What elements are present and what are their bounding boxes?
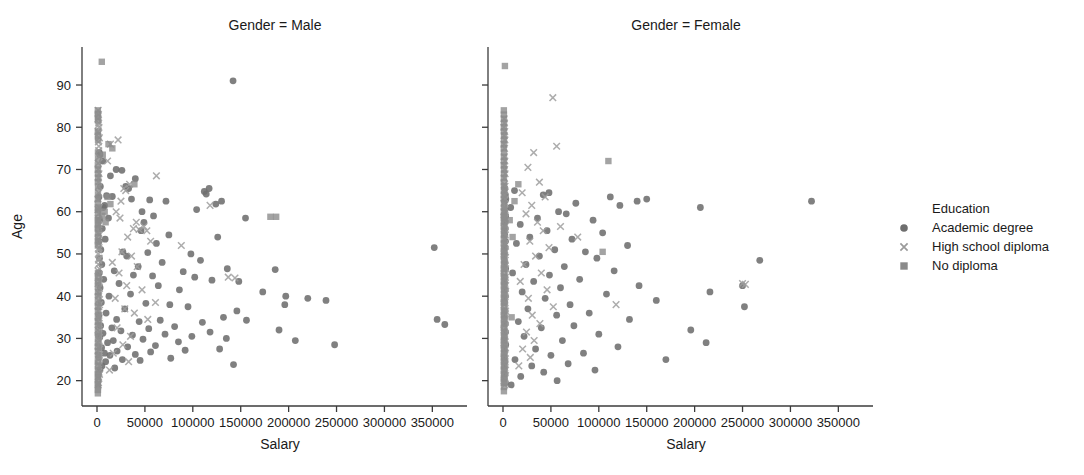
data-point-square [605,158,611,164]
data-point-cross [147,238,154,245]
data-point-square [95,185,101,191]
data-point-circle [243,317,250,324]
x-tick-label: 50000 [533,415,569,430]
data-point-square [109,145,115,151]
data-point-cross [525,295,532,302]
y-tick-label: 20 [57,373,71,388]
data-point-circle [171,323,178,330]
data-point-circle [553,312,560,319]
data-point-circle [102,236,109,243]
data-point-circle [230,361,237,368]
data-point-circle [182,347,189,354]
data-point-circle [565,360,572,367]
data-point-circle [557,284,564,291]
data-point-circle [532,346,539,353]
y-tick-label: 30 [57,331,71,346]
data-point-circle [548,352,555,359]
data-point-circle [150,213,157,220]
data-point-circle [572,200,579,207]
data-point-circle [128,196,135,203]
data-point-circle [509,270,516,277]
data-point-circle [223,335,230,342]
data-point-circle [159,259,166,266]
data-point-cross [531,337,538,344]
data-point-cross [519,346,526,353]
x-tick-label: 350000 [411,415,454,430]
data-point-square [273,214,279,220]
data-point-cross [125,358,132,365]
data-point-circle [167,355,174,362]
data-point-circle [756,257,763,264]
data-point-circle [542,295,549,302]
data-point-cross [232,275,239,282]
data-point-circle [555,208,562,215]
data-point-circle [212,201,219,208]
panel-title-female: Gender = Female [631,17,741,33]
data-point-cross [123,282,130,289]
data-point-square [95,293,101,299]
data-point-circle [233,308,240,315]
data-point-circle [304,295,311,302]
data-point-circle [147,349,154,356]
data-point-circle [519,289,526,296]
data-point-circle [197,257,204,264]
x-tick-label: 100000 [171,415,214,430]
y-tick-label: 60 [57,204,71,219]
data-point-square [502,63,508,69]
data-point-circle [214,234,221,241]
data-point-circle [576,276,583,283]
data-point-circle [199,319,206,326]
data-point-circle [707,289,714,296]
data-point-circle [165,232,172,239]
legend-title: Education [932,201,990,216]
data-point-cross [153,173,160,180]
x-axis-label: Salary [260,436,300,452]
data-point-square [95,308,101,314]
data-point-circle [145,325,152,332]
legend-label-1: High school diploma [932,239,1050,254]
data-point-cross [106,367,113,374]
x-tick-label: 300000 [363,415,406,430]
data-point-circle [611,267,618,274]
data-point-circle [687,327,694,334]
data-point-circle [517,373,524,380]
legend-marker-square [900,262,907,269]
data-point-square [95,137,101,143]
data-point-circle [616,202,623,209]
data-point-circle [188,333,195,340]
data-point-cross [527,354,534,361]
data-point-circle [140,336,147,343]
legend-marker-circle [900,224,908,232]
data-point-cross [152,299,159,306]
data-point-circle [209,277,216,284]
data-point-square [515,181,521,187]
data-point-circle [603,291,610,298]
data-point-cross [613,301,620,308]
data-point-cross [139,287,146,294]
data-point-circle [216,346,223,353]
data-point-circle [431,244,438,251]
x-tick-label: 150000 [219,415,262,430]
data-point-circle [119,167,126,174]
data-point-circle [563,210,570,217]
data-point-circle [594,255,601,262]
data-point-cross [528,202,535,209]
data-point-circle [590,217,597,224]
y-axis-label: Age [9,214,25,239]
data-point-circle [153,240,160,247]
data-point-square [104,194,110,200]
data-point-circle [144,249,151,256]
data-point-circle [513,240,520,247]
data-point-circle [166,301,173,308]
data-point-cross [519,189,526,196]
data-point-cross [178,242,185,249]
data-point-cross [113,208,120,215]
data-point-circle [530,278,537,285]
data-point-circle [180,268,187,275]
data-point-circle [559,337,566,344]
data-point-circle [634,198,641,205]
data-point-circle [643,196,650,203]
data-point-circle [176,286,183,293]
data-point-square [95,352,101,358]
data-point-circle [551,246,558,253]
